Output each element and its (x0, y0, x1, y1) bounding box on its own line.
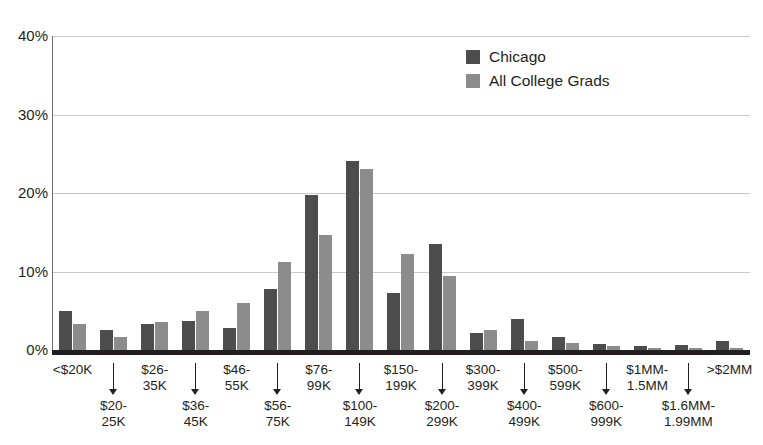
chart-legend: ChicagoAll College Grads (466, 46, 696, 94)
arrow-head (602, 389, 610, 395)
bar-chicago (675, 345, 688, 350)
bar-group (257, 36, 298, 350)
bar-all-college-grads (196, 311, 209, 350)
arrow-head (191, 389, 199, 395)
arrow-head (684, 389, 692, 395)
x-tick-label: $500- 599K (533, 362, 597, 394)
arrow-shaft (195, 363, 196, 389)
bar-all-college-grads (237, 303, 250, 350)
x-tick-label: $600- 999K (574, 398, 638, 430)
bar-group (134, 36, 175, 350)
x-tick-label: $300- 399K (451, 362, 515, 394)
x-tick-label: <$20K (41, 362, 105, 378)
bar-chicago (593, 344, 606, 350)
arrow-head (273, 389, 281, 395)
arrow-shaft (688, 363, 689, 389)
bar-group (216, 36, 257, 350)
arrow-head (109, 389, 117, 395)
x-tick-label: $26- 35K (123, 362, 187, 394)
bar-chicago (182, 321, 195, 350)
bar-chicago (100, 330, 113, 350)
bar-chicago (511, 319, 524, 350)
y-axis-labels: 0%10%20%30%40% (0, 0, 48, 445)
bar-group (298, 36, 339, 350)
arrow-shaft (277, 363, 278, 389)
bar-all-college-grads (278, 262, 291, 350)
x-tick-label: $56- 75K (246, 398, 310, 430)
legend-item[interactable]: All College Grads (466, 70, 696, 92)
bar-all-college-grads (525, 341, 538, 350)
bar-all-college-grads (443, 276, 456, 350)
x-tick-label: $76- 99K (287, 362, 351, 394)
x-axis-line (52, 350, 750, 355)
x-tick-label: $200- 299K (410, 398, 474, 430)
bar-group (93, 36, 134, 350)
y-tick-label: 40% (4, 28, 48, 43)
legend-item[interactable]: Chicago (466, 46, 696, 68)
arrow-head (520, 389, 528, 395)
bar-chicago (59, 311, 72, 350)
bar-chicago (552, 337, 565, 350)
x-tick-label: $20- 25K (82, 398, 146, 430)
legend-label: Chicago (489, 49, 546, 65)
bar-chicago (387, 293, 400, 350)
bar-all-college-grads (360, 169, 373, 350)
bar-all-college-grads (484, 330, 497, 350)
bar-all-college-grads (319, 235, 332, 350)
bar-all-college-grads (155, 322, 168, 350)
arrow-head (438, 389, 446, 395)
bar-chicago (264, 289, 277, 350)
x-tick-label: $400- 499K (492, 398, 556, 430)
bar-group (422, 36, 463, 350)
y-tick-label: 10% (4, 264, 48, 279)
bar-all-college-grads (648, 348, 661, 350)
x-tick-label: $100- 149K (328, 398, 392, 430)
bar-group (339, 36, 380, 350)
bar-chicago (346, 161, 359, 350)
x-tick-label: $150- 199K (369, 362, 433, 394)
bar-all-college-grads (566, 343, 579, 350)
bar-all-college-grads (689, 348, 702, 350)
bar-all-college-grads (401, 254, 414, 350)
legend-label: All College Grads (489, 73, 610, 89)
bar-all-college-grads (114, 337, 127, 350)
bar-group (380, 36, 421, 350)
x-axis-labels: <$20K$20- 25K$26- 35K$36- 45K$46- 55K$56… (52, 357, 750, 445)
arrow-shaft (606, 363, 607, 389)
bar-all-college-grads (607, 346, 620, 350)
bar-chicago (223, 328, 236, 350)
x-tick-label: $1MM- 1.5MM (615, 362, 679, 394)
bar-all-college-grads (730, 348, 743, 350)
arrow-shaft (359, 363, 360, 389)
arrow-shaft (113, 363, 114, 389)
bar-chicago (429, 244, 442, 350)
legend-swatch-icon (466, 50, 480, 64)
bar-all-college-grads (73, 324, 86, 350)
bar-chicago (470, 333, 483, 350)
bar-chicago (634, 346, 647, 350)
bar-chicago (305, 195, 318, 350)
arrow-head (355, 389, 363, 395)
bar-group (709, 36, 750, 350)
y-tick-label: 0% (4, 342, 48, 357)
bar-group (52, 36, 93, 350)
y-tick-label: 20% (4, 185, 48, 200)
legend-swatch-icon (466, 74, 480, 88)
x-tick-label: $36- 45K (164, 398, 228, 430)
x-tick-label: >$2MM (697, 362, 761, 378)
bar-chicago (716, 341, 729, 350)
x-tick-label: $1.6MM- 1.99MM (656, 398, 720, 430)
bar-chicago (141, 324, 154, 350)
y-tick-label: 30% (4, 107, 48, 122)
bar-group (175, 36, 216, 350)
x-tick-label: $46- 55K (205, 362, 269, 394)
arrow-shaft (442, 363, 443, 389)
bar-chart: 0%10%20%30%40% ChicagoAll College Grads … (0, 0, 763, 445)
arrow-shaft (524, 363, 525, 389)
